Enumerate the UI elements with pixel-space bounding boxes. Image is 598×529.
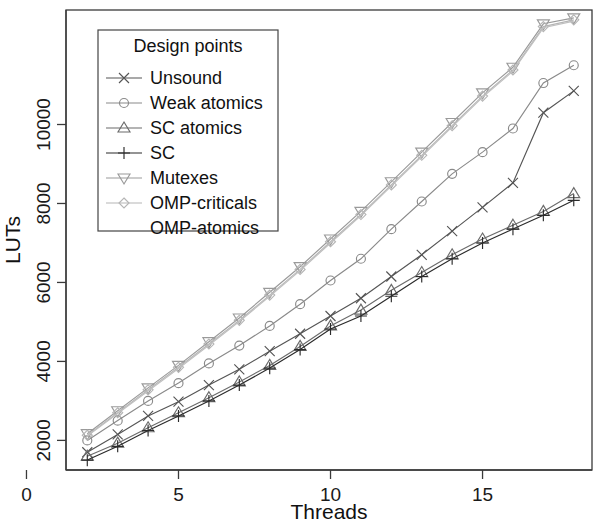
chart-canvas: 051015200040006000800010000ThreadsLUTs D… (0, 0, 598, 529)
legend-item-label: OMP-atomics (150, 218, 259, 238)
legend-item-label: SC (150, 143, 175, 163)
y-tick-label: 4000 (33, 340, 54, 382)
legend-item-label: OMP-criticals (150, 193, 257, 213)
y-tick-label: 6000 (33, 261, 54, 303)
y-axis-title: LUTs (1, 216, 24, 264)
legend-item-label: Weak atomics (150, 93, 263, 113)
legend-item-label: Mutexes (150, 168, 218, 188)
legend-title: Design points (133, 36, 242, 56)
x-tick-label: 5 (173, 484, 184, 505)
legend-item-label: SC atomics (150, 118, 242, 138)
y-tick-label: 10000 (33, 98, 54, 151)
x-tick-label: 15 (472, 484, 493, 505)
y-tick-label: 8000 (33, 182, 54, 224)
y-tick-label: 2000 (33, 419, 54, 461)
x-tick-label: 0 (21, 484, 32, 505)
legend-item-omp-atomics[interactable]: OMP-atomics (150, 218, 259, 238)
x-axis-title: Threads (290, 500, 367, 523)
lut-vs-threads-line-chart: 051015200040006000800010000ThreadsLUTs D… (0, 0, 598, 529)
legend-item-label: Unsound (150, 68, 222, 88)
legend[interactable]: Design pointsUnsoundWeak atomicsSC atomi… (98, 30, 278, 238)
